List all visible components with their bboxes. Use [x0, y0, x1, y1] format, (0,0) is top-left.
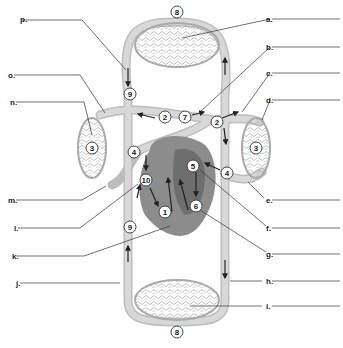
- number-text: 3: [90, 144, 95, 153]
- label-p: p.: [20, 15, 27, 24]
- number-text: 5: [191, 162, 196, 171]
- number-text: 4: [132, 148, 137, 157]
- number-text: 3: [254, 144, 259, 153]
- capillary-bed-top: [135, 23, 219, 67]
- label-h: h.: [266, 277, 273, 286]
- number-text: 2: [163, 113, 168, 122]
- number-text: 8: [175, 328, 180, 337]
- number-text: 9: [128, 223, 133, 232]
- number-text: 1: [163, 208, 168, 217]
- capillary-bed-bottom: [135, 280, 219, 320]
- label-g: g.: [266, 250, 273, 259]
- number-text: 4: [225, 169, 230, 178]
- label-d: d.: [266, 96, 273, 105]
- number-text: 7: [183, 113, 188, 122]
- label-f: f.: [266, 224, 271, 233]
- label-m: m.: [8, 196, 17, 205]
- number-text: 8: [175, 8, 180, 17]
- label-k: k.: [12, 252, 19, 261]
- label-l: l.: [14, 224, 18, 233]
- number-text: 2: [215, 118, 220, 127]
- label-o: o.: [8, 71, 15, 80]
- label-n: n.: [10, 98, 17, 107]
- label-b: b.: [266, 43, 273, 52]
- label-a: a.: [266, 15, 273, 24]
- number-text: 10: [142, 176, 151, 185]
- number-text: 9: [128, 90, 133, 99]
- label-j: j.: [15, 279, 20, 288]
- label-e: e.: [266, 196, 273, 205]
- number-text: 6: [194, 202, 199, 211]
- label-i: i.: [266, 302, 270, 311]
- label-c: c.: [266, 69, 273, 78]
- circulatory-diagram: p.o.n.m.l.k.j.a.b.c.d.e.f.g.h.i. 8927233…: [0, 0, 343, 348]
